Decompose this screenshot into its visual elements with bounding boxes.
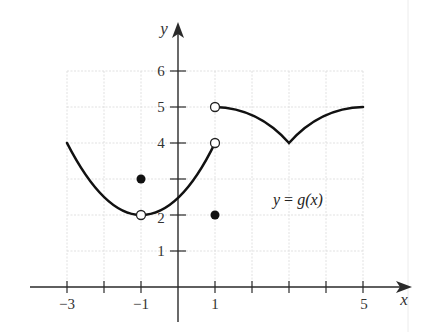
closed-point-1-2 — [211, 211, 220, 220]
function-graph: −3 −1 1 5 6 5 4 2 1 x y y = g(x) — [0, 0, 437, 332]
closed-point-neg1-3 — [137, 175, 146, 184]
x-axis-label: x — [399, 290, 408, 309]
function-label-arg: (x) — [305, 191, 323, 209]
y-tick-label-5: 5 — [157, 99, 165, 115]
open-point-neg1-2 — [137, 211, 146, 220]
x-tick-label-5: 5 — [360, 296, 368, 312]
open-point-1-5 — [211, 103, 220, 112]
function-label-equals: = — [280, 191, 297, 208]
y-axis-label: y — [158, 19, 168, 38]
y-tick-label-6: 6 — [157, 63, 165, 79]
x-tick-label-minus3: −3 — [59, 296, 75, 312]
function-label-g: g — [297, 191, 305, 209]
open-point-1-4 — [211, 139, 220, 148]
x-tick-label-minus1: −1 — [133, 296, 149, 312]
y-tick-label-4: 4 — [157, 135, 165, 151]
x-tick-label-1: 1 — [211, 296, 219, 312]
y-tick-label-1: 1 — [157, 243, 165, 259]
function-label: y = g(x) — [271, 191, 323, 209]
